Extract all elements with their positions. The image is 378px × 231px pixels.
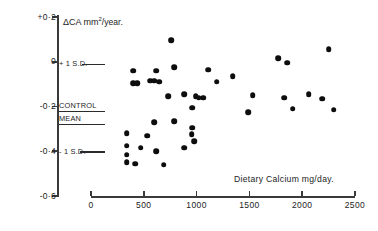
data-point [281,95,287,101]
data-point [191,138,197,144]
data-point [144,133,150,139]
x-tick-label: 1000 [186,200,208,210]
data-point [285,60,291,66]
reference-line-label: CONTROL [59,101,97,110]
data-point [214,79,220,85]
reference-line [59,124,105,125]
data-point [250,93,256,99]
y-tick-label: -0·2 [40,101,56,111]
reference-line [59,111,105,112]
data-point [124,143,130,149]
data-point [200,95,206,101]
data-point [205,67,211,73]
data-point [168,38,174,44]
x-tick-mark [354,191,356,196]
data-point [154,148,160,154]
data-point [181,91,187,97]
data-point [181,145,187,151]
x-tick-mark [143,191,145,196]
x-axis-title: Dietary Calcium mg/day. [234,174,334,184]
y-axis-title: ΔCA mm2/year. [63,16,123,27]
data-point [152,119,158,125]
x-tick-label: 1500 [238,200,260,210]
data-point [246,109,252,115]
data-point [190,125,196,131]
data-point [331,107,337,113]
data-point [189,132,195,138]
reference-line [82,64,105,65]
data-point [172,65,178,71]
data-point [230,73,236,79]
data-point [154,68,160,74]
x-tick-label: 0 [80,200,102,210]
x-tick-label: 2500 [344,200,366,210]
chart-figure: ΔCA mm2/year. Dietary Calcium mg/day. +0… [0,0,378,231]
x-axis-line [91,196,355,198]
y-tick-label: -0·4 [40,146,56,156]
data-point [326,47,332,53]
y-tick-label: 0 [51,56,56,66]
y-axis-title-suffix: /year. [102,17,123,27]
x-tick-mark [301,191,303,196]
y-tick-label: +0·2 [38,12,56,22]
data-point [156,79,162,85]
data-point [161,162,167,168]
data-point [124,152,130,158]
data-point [275,56,281,62]
data-point [138,145,144,151]
data-point [124,131,130,137]
reference-line-label: MEAN [59,114,81,123]
data-point [306,91,312,97]
y-tick-label: -0·6 [40,191,56,201]
reference-line [80,151,105,152]
data-point [165,94,171,100]
data-point [190,105,196,111]
x-tick-label: 500 [133,200,155,210]
data-point [172,118,178,124]
x-tick-mark [196,191,198,196]
data-point [290,106,296,112]
scatter-plot-area: ΔCA mm2/year. Dietary Calcium mg/day. +0… [0,0,378,231]
x-tick-label: 2000 [291,200,313,210]
data-point [133,161,139,167]
data-point [319,96,325,102]
data-point [130,68,136,74]
x-tick-mark [249,191,251,196]
data-point [134,80,140,86]
y-axis-title-prefix: ΔCA mm [63,17,99,27]
x-tick-mark [90,191,92,196]
data-point [124,160,130,166]
